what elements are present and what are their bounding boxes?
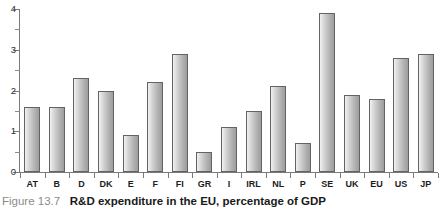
x-axis-tick (45, 173, 46, 178)
x-axis-tick-label: I (217, 179, 242, 189)
x-axis-tick (69, 173, 70, 178)
x-axis-tick-label: US (389, 179, 414, 189)
x-axis-tick (340, 173, 341, 178)
y-axis-tick-minor (15, 70, 20, 71)
bar (344, 95, 360, 172)
x-axis-tick (94, 173, 95, 178)
bar (319, 13, 335, 172)
bar (246, 111, 262, 172)
x-axis-tick (118, 173, 119, 178)
x-axis-tick (192, 173, 193, 178)
x-axis-tick-label: F (143, 179, 168, 189)
figure-caption: Figure 13.7 R&D expenditure in the EU, p… (2, 193, 440, 209)
x-axis-tick (315, 173, 316, 178)
x-axis-tick (413, 173, 414, 178)
bar (24, 107, 40, 172)
bar (49, 107, 65, 172)
x-axis-tick-label: GR (192, 179, 217, 189)
bar (418, 54, 434, 172)
x-axis-tick-label: SE (315, 179, 340, 189)
x-axis-tick (266, 173, 267, 178)
figure-number: Figure 13.7 (2, 195, 60, 207)
y-axis-tick-label: 0 (4, 167, 16, 176)
y-axis-tick-label: 4 (4, 4, 16, 13)
x-axis-tick (217, 173, 218, 178)
x-axis-tick-label: E (118, 179, 143, 189)
x-axis-tick-label: FI (168, 179, 193, 189)
bar-chart-plot: 01234 ATBDDKEFFIGRIIRLNLPSEUKEUUSJP (0, 0, 442, 188)
y-axis-tick-label: 1 (4, 126, 16, 135)
y-axis-tick-minor (15, 111, 20, 112)
x-axis-tick-label: AT (20, 179, 45, 189)
bar (221, 127, 237, 172)
x-axis-tick (168, 173, 169, 178)
bar (196, 152, 212, 172)
bar (147, 82, 163, 172)
x-axis-tick-label: P (290, 179, 315, 189)
x-axis-tick-label: DK (94, 179, 119, 189)
y-axis-tick-minor (15, 152, 20, 153)
x-axis-tick-label: IRL (241, 179, 266, 189)
figure-title: R&D expenditure in the EU, percentage of… (70, 195, 326, 207)
x-axis-tick (364, 173, 365, 178)
x-axis-tick-label: B (45, 179, 70, 189)
bar (369, 99, 385, 172)
x-axis-tick (438, 173, 439, 178)
x-axis-tick (20, 173, 21, 178)
x-axis-tick-label: UK (340, 179, 365, 189)
bar (393, 58, 409, 172)
x-axis-tick (241, 173, 242, 178)
y-axis-tick-label: 3 (4, 45, 16, 54)
x-axis-tick-label: EU (364, 179, 389, 189)
x-axis-tick-label: JP (413, 179, 438, 189)
y-axis-tick-label: 2 (4, 86, 16, 95)
bar (270, 86, 286, 172)
x-axis-tick (389, 173, 390, 178)
bar (123, 135, 139, 172)
x-axis-tick-label: D (69, 179, 94, 189)
y-axis-tick-minor (15, 29, 20, 30)
x-axis-tick (143, 173, 144, 178)
bar (295, 143, 311, 172)
bar (98, 91, 114, 173)
x-axis-tick-label: NL (266, 179, 291, 189)
figure-container: 01234 ATBDDKEFFIGRIIRLNLPSEUKEUUSJP Figu… (0, 0, 442, 216)
x-axis-line (19, 172, 438, 173)
bar (73, 78, 89, 172)
bar (172, 54, 188, 172)
x-axis-tick (290, 173, 291, 178)
